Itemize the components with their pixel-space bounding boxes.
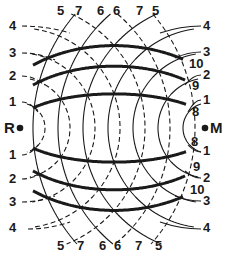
label-curve-top-10: 10 [189,56,203,71]
label-top-pair-1-solid: 7 [75,3,82,18]
label-bottom-pair-2-solid: 6 [114,238,121,253]
label-top-pair-3-solid: 5 [152,3,159,18]
thick-elliptical-curves [33,46,186,211]
label-left-top-3: 3 [9,45,16,60]
label-right-top-1: 1 [203,92,210,107]
source-r-dot [17,125,24,132]
label-left-top-1: 1 [9,94,16,109]
label-curve-bottom-8: 8 [191,134,198,149]
label-bottom-pair-1-dashed: 5 [57,238,64,253]
source-m-label: M [210,119,223,136]
label-left-bottom-3: 3 [9,194,16,209]
label-bottom-pair-3-solid: 5 [155,238,162,253]
label-right-bottom-4: 4 [203,220,211,235]
label-curve-top-8: 8 [192,104,199,119]
leader-right-b4 [160,222,201,229]
label-right-top-2: 2 [203,67,210,82]
label-curve-bottom-10: 10 [190,182,204,197]
dashed-circle-3 [32,54,95,202]
source-m-dot [202,125,209,132]
label-top-pair-3-dashed: 7 [136,3,143,18]
solid-circle-7 [33,14,77,244]
label-curve-top-9: 9 [192,78,199,93]
label-bottom-pair-2-dashed: 6 [99,238,106,253]
interference-diagram: R M 4 3 2 1 1 2 3 4 4 3 2 1 1 2 3 4 10 9… [0,0,227,257]
label-left-top-2: 2 [9,68,16,83]
label-left-bottom-2: 2 [9,171,16,186]
solid-circle-3 [133,54,196,202]
label-right-top-4: 4 [203,18,211,33]
label-curve-bottom-9: 9 [193,159,200,174]
label-top-pair-1-dashed: 5 [57,3,64,18]
label-right-bottom-1: 1 [203,143,210,158]
label-bottom-pair-3-dashed: 7 [135,238,142,253]
label-top-pair-2-dashed: 6 [97,3,104,18]
label-top-pair-2-solid: 6 [113,3,120,18]
label-left-bottom-4: 4 [9,220,17,235]
dashed-circle-1 [27,104,45,152]
label-right-top-3: 3 [203,44,210,59]
label-bottom-pair-1-solid: 7 [77,238,84,253]
label-left-top-4: 4 [9,18,17,33]
label-left-bottom-1: 1 [9,147,16,162]
source-r-label: R [4,119,15,136]
